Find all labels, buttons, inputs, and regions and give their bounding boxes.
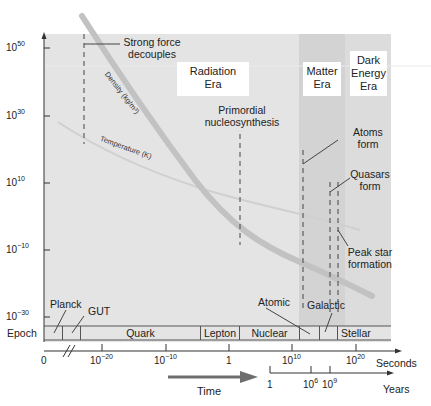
years-axis-arrow [387,371,394,376]
atoms-form-label: Atomsform [350,126,386,150]
y-tick-label: 10−30 [6,311,29,322]
radiation-era-label: RadiationEra [177,62,249,96]
time-arrow-label: Time [197,385,221,397]
gut-epoch-label: GUT [88,305,110,317]
epoch-quark-cell: Quark [80,326,200,340]
epoch-nuclear-cell: Nuclear [239,326,299,340]
galactic-epoch-label: Galactic [307,299,345,311]
dark-energy-era-label: DarkEnergyEra [350,51,387,96]
epoch-galactic-cell [319,326,337,340]
years-tick-label: 106 [303,379,318,390]
matter-era-label: MatterEra [303,62,341,96]
quasars-leader [330,178,350,192]
x-tick-label: 1 [226,355,232,366]
y-axis-arrow [42,32,47,39]
epoch-atomic-cell [299,326,319,340]
years-axis-label: Years [383,383,409,395]
seconds-axis-label: Seconds [376,357,417,369]
atoms-form-leader [303,140,338,164]
y-tick-label: 1010 [6,177,25,188]
epoch-planck-cell [44,326,62,340]
y-tick-label: 1050 [6,42,25,53]
peak-star-formation-label: Peak starformation [345,246,395,270]
x-tick-label: 1010 [282,355,301,366]
planck-epoch-label: Planck [50,298,82,310]
x-tick-label: 10−20 [90,355,113,366]
quasars-form-label: Quasarsform [348,168,392,192]
time-arrow-head [240,371,258,383]
x-axis-arrow [395,349,402,354]
atomic-epoch-label: Atomic [258,296,290,308]
years-tick-label: 1 [267,379,273,390]
epoch-stellar-cell: Stellar [337,326,391,340]
epoch-row-label: Epoch [7,327,37,339]
x-tick-label: 10−10 [154,355,177,366]
x-tick-label: 1020 [346,355,365,366]
nucleosynthesis-label: Primordialnucleosynthesis [200,104,284,128]
epoch-bar: Quark Lepton Nuclear Stellar [44,326,391,340]
strong-force-label: Strong forcedecouples [121,36,183,60]
y-tick-label: 1030 [6,110,25,121]
epoch-lepton-cell: Lepton [200,326,239,340]
y-tick-label: 10−10 [6,244,29,255]
years-tick-label: 109 [322,379,337,390]
x-tick-label-zero: 0 [41,355,47,366]
peak-star-leader [338,230,348,246]
epoch-gut-cell [62,326,80,340]
